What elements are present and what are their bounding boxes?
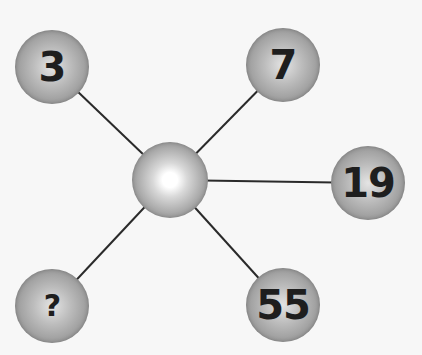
number-ball-bottom-right: 55 xyxy=(246,268,320,342)
number-ball-top-left: 3 xyxy=(15,30,89,104)
number-label: 3 xyxy=(39,47,66,87)
unknown-ball-bottom-left: ? xyxy=(15,269,89,343)
question-mark-label: ? xyxy=(44,291,60,321)
number-puzzle-diagram: 3 7 19 55 ? xyxy=(0,0,422,355)
number-ball-right: 19 xyxy=(331,146,405,220)
number-label: 55 xyxy=(256,285,310,325)
number-label: 19 xyxy=(341,163,395,203)
center-hub-ball xyxy=(132,142,208,218)
number-ball-top-right: 7 xyxy=(246,28,320,102)
number-label: 7 xyxy=(270,45,297,85)
